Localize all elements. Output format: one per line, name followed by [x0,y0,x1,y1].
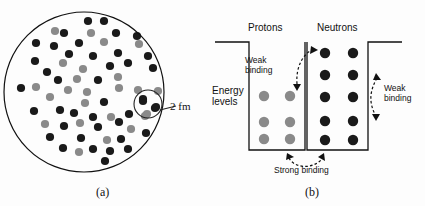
nucleon-gray [59,59,67,67]
nucleon-dark [54,76,62,84]
nucleon-dark [100,17,108,25]
neutron-level-dot [320,116,330,126]
nucleon-dark [139,97,147,105]
weak-binding-arrow-right-head-bottom [372,114,380,121]
caption-panel-a: (a) [96,185,109,200]
nucleon-dark [60,29,68,37]
nucleon-gray [83,88,91,96]
nucleon-gray [46,93,54,101]
weak-binding-label-left: Weak binding [245,56,272,75]
protons-column-label: Protons [248,22,282,33]
nucleon-dark [77,134,85,142]
nucleon-dark [142,129,150,137]
nucleon-dark [115,118,123,126]
nucleon-gray [76,119,84,127]
nucleon-dark [60,122,68,130]
neutron-level-dot [348,135,358,145]
nucleon-dark [152,103,160,111]
nucleon-dark [89,52,97,60]
nucleon-dark [31,57,39,65]
neutrons-column-label: Neutrons [317,22,358,33]
scale-label: 2 fm [170,100,190,112]
nucleon-gray [75,148,83,156]
nucleon-gray [103,136,111,144]
weak-binding-arrow-left-head-top [310,46,318,54]
nucleon-dark [30,107,38,115]
weak-binding-label-right: Weak binding [384,84,411,103]
proton-level-dot [259,134,269,144]
caption-panel-b: (b) [305,185,319,200]
nucleon-gray [79,65,87,73]
nucleon-gray [100,38,108,46]
nucleon-dark [59,144,67,152]
nucleon-gray [115,84,123,92]
neutron-level-dot [348,92,358,102]
nucleon-dark [17,84,25,92]
nucleon-gray [81,99,89,107]
weak-binding-arrow-right [371,78,377,116]
nucleon-dark [124,145,132,153]
nucleon-dark [114,49,122,57]
panel-b-energy-levels: Protons Neutrons Energy levels Weak bind… [212,0,425,206]
nucleon-gray [127,125,135,133]
nucleon-gray [41,120,49,128]
nucleon-dark [124,59,132,67]
nucleon-dark [106,62,114,70]
energy-level-dot-group [259,48,358,145]
nucleon-dark [84,17,92,25]
nucleon-dark [100,98,108,106]
nucleon-dark [101,157,109,165]
proton-level-dot [259,91,269,101]
nucleon-dark [70,109,78,117]
proton-level-dot [285,134,295,144]
neutron-level-dot [320,135,330,145]
strong-binding-arrow-head-right [318,153,325,161]
nucleon-dark [89,113,97,121]
nucleon-dark [125,110,133,118]
neutron-level-dot [320,92,330,102]
nucleon-gray [107,113,115,121]
nucleon-gray [114,73,122,81]
proton-level-dot [285,117,295,127]
nucleon-gray [64,86,72,94]
nucleon-dark [43,68,51,76]
proton-level-dot [259,117,269,127]
nucleon-dark [106,147,114,155]
nucleon-dark [94,123,102,131]
nucleon-gray [87,29,95,37]
nucleon-dark [50,42,58,50]
nucleon-dark [75,39,83,47]
strong-binding-label: Strong binding [274,166,329,176]
neutron-level-dot [348,48,358,58]
neutron-level-dot [320,70,330,80]
proton-level-dot [285,91,295,101]
nucleon-dark [56,106,64,114]
nucleon-dark [133,32,141,40]
nucleon-gray [135,40,143,48]
nucleon-dark [46,133,54,141]
nucleon-dark [117,135,125,143]
nuclear-shell-model-figure: 2 fm Protons Neutrons Energy levels Weak… [0,0,425,206]
nucleon-gray [32,83,40,91]
nucleon-gray [134,86,142,94]
neutron-level-dot [348,70,358,80]
neutron-level-dot [348,116,358,126]
nucleon-dark [94,76,102,84]
nucleon-dark [149,64,157,72]
panel-a-nucleus: 2 fm [0,0,212,206]
neutron-level-dot [320,48,330,58]
nucleon-group [17,17,162,165]
nucleon-gray [73,75,81,83]
weak-binding-arrow-left [297,50,311,84]
nucleon-dark [144,52,152,60]
weak-binding-arrow-right-head-top [373,73,381,80]
nucleon-dark [89,145,97,153]
energy-levels-axis-label: Energy levels [212,85,244,107]
nucleon-dark [32,39,40,47]
nucleon-gray [51,27,59,35]
nucleon-dark [112,29,120,37]
nucleon-dark [65,50,73,58]
weak-binding-arrow-left-head-bottom [293,84,301,91]
nucleon-gray [143,110,151,118]
